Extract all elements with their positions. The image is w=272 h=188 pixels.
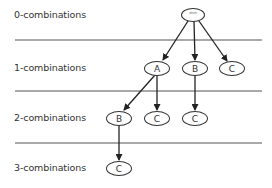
node-ABC: C — [106, 161, 132, 176]
level-separators — [15, 40, 262, 143]
edge-root-B — [194, 21, 195, 60]
node-C: C — [219, 61, 245, 76]
node-BC: C — [182, 111, 208, 126]
edge-root-C — [199, 21, 227, 61]
combinations-tree-diagram: 0-combinations 1-combinations 2-combinat… — [0, 0, 272, 188]
edge-A-B — [124, 75, 155, 110]
diagram-canvas — [0, 0, 272, 188]
level-label-1: 1-combinations — [14, 62, 86, 73]
level-label-3: 3-combinations — [14, 162, 86, 173]
node-root-empty-set: '''' — [181, 8, 205, 22]
level-label-0: 0-combinations — [14, 9, 86, 20]
level-label-2: 2-combinations — [14, 112, 86, 123]
node-AB: B — [106, 111, 132, 126]
node-A: A — [144, 61, 170, 76]
node-AC: C — [144, 111, 170, 126]
node-B: B — [182, 61, 208, 76]
